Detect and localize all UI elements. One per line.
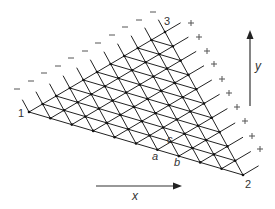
vertex-label-1: 1 <box>18 107 24 119</box>
lattice-node <box>242 174 245 177</box>
lattice-node <box>123 55 126 58</box>
lattice-node <box>49 117 52 120</box>
lattice-node <box>113 136 116 139</box>
plus-sign-icon <box>226 90 232 96</box>
lattice-node <box>139 83 142 86</box>
lattice-node <box>109 63 112 66</box>
grid-line-u <box>43 104 236 161</box>
lattice-node <box>137 47 140 50</box>
lattice-node <box>146 98 149 101</box>
lattice-node <box>197 125 200 128</box>
point-label-a: a <box>152 150 158 162</box>
lattice-node <box>135 142 138 145</box>
x-axis-label: x <box>131 189 139 203</box>
point-label-c: c <box>167 133 173 145</box>
lattice-node <box>92 130 95 133</box>
lattice-node <box>119 114 122 117</box>
lattice-node <box>211 117 214 120</box>
lattice-node <box>71 123 74 126</box>
plus-sign-icon <box>249 133 255 139</box>
lattice-node <box>187 74 190 77</box>
lattice-node <box>106 122 109 125</box>
lattice-node <box>220 167 223 170</box>
lattice-node <box>150 39 153 42</box>
lattice-node <box>76 101 79 104</box>
plus-sign-icon <box>219 76 225 82</box>
lattice-node <box>133 106 136 109</box>
plus-sign-icon <box>196 34 202 40</box>
lattice-node <box>148 134 151 137</box>
lattice-node <box>154 112 157 115</box>
lattice-node <box>176 118 179 121</box>
lattice-node <box>131 69 134 72</box>
lattice-node <box>63 109 66 112</box>
lattice-node <box>183 133 186 136</box>
lattice-node <box>69 87 72 90</box>
grid-line-w <box>158 20 243 175</box>
plus-sign-icon <box>204 48 210 54</box>
lattice-node <box>189 110 192 113</box>
triangular-lattice-diagram: x y 1 2 3 a b c <box>0 0 275 209</box>
lattice-node <box>90 93 93 96</box>
lattice-node <box>84 115 87 118</box>
lattice-node <box>174 82 177 85</box>
y-axis-label: y <box>254 59 262 73</box>
lattice-node <box>104 85 107 88</box>
x-arrowhead-icon <box>173 183 182 190</box>
grid-line-v <box>243 166 259 175</box>
lattice-node <box>152 75 155 78</box>
lattice-node <box>234 159 237 162</box>
lattice-node <box>41 103 44 106</box>
lattice-node <box>181 96 184 99</box>
lattice-node <box>98 107 101 110</box>
plus-sign-icon <box>242 118 248 124</box>
lattice-node <box>55 95 58 98</box>
grid-line-u <box>124 56 188 75</box>
lattice-node <box>162 126 165 129</box>
plus-sign-icon <box>234 104 240 110</box>
lattice-node <box>226 145 229 148</box>
lattice-node <box>82 79 85 82</box>
lattice-node <box>168 104 171 107</box>
lattice-node <box>179 59 182 62</box>
lattice-node <box>96 71 99 74</box>
lattice-node <box>141 120 144 123</box>
lattice-node <box>164 31 167 34</box>
grid-line-w <box>50 84 72 125</box>
lattice-node <box>125 91 128 94</box>
lattice-node <box>160 90 163 93</box>
lattice-node <box>172 45 175 48</box>
plus-sign-icon <box>257 146 263 152</box>
lattice-node <box>166 67 169 70</box>
lattice-node <box>117 77 120 80</box>
point-label-b: b <box>174 156 180 168</box>
lattice-node <box>158 53 161 56</box>
grid-line-u <box>97 72 204 104</box>
lattice-node <box>144 61 147 64</box>
lattice-node <box>191 147 194 150</box>
plus-sign-icon <box>211 61 217 67</box>
y-arrowhead-icon <box>247 30 254 39</box>
lattice-node <box>205 139 208 142</box>
lattice-node <box>28 111 31 114</box>
lattice-node <box>203 102 206 105</box>
plus-sign-icon <box>188 20 194 26</box>
lattice-grid <box>22 20 258 175</box>
lattice-node <box>199 161 202 164</box>
lattice-node <box>127 128 130 131</box>
lattice-node <box>195 88 198 91</box>
lattice-node <box>111 99 114 102</box>
lattice-node <box>213 153 216 156</box>
lattice-node <box>218 131 221 134</box>
vertex-label-2: 2 <box>245 178 251 190</box>
vertex-label-3: 3 <box>164 15 170 27</box>
